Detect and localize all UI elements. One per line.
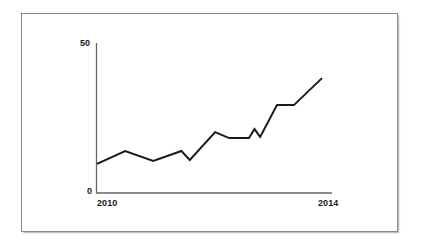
y-axis-tick-label-min: 0 (87, 187, 92, 196)
chart-series-group (97, 78, 322, 164)
x-axis-tick-label-start: 2010 (97, 199, 117, 208)
y-axis-tick-label-max: 50 (80, 39, 90, 48)
chart-axes (97, 43, 333, 194)
figure-root: 50 0 2010 2014 (0, 0, 421, 249)
x-axis-tick-label-end: 2014 (318, 199, 338, 208)
line-chart (0, 0, 421, 249)
data-line-series-1 (97, 78, 322, 164)
